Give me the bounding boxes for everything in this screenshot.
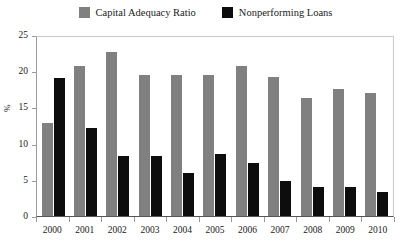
legend-label: Nonperforming Loans [239, 7, 333, 18]
x-axis-tick-mark [361, 217, 362, 222]
bar-group [102, 37, 134, 216]
x-axis-tick-mark [264, 217, 265, 222]
x-axis-tick-label: 2008 [296, 225, 329, 236]
y-axis-tick-label: 0 [23, 212, 28, 222]
x-axis-tick-label: 2007 [264, 225, 297, 236]
bar [268, 77, 279, 216]
x-axis-tick-label: 2004 [166, 225, 199, 236]
bar [377, 192, 388, 216]
bar [151, 156, 162, 216]
bar-group [361, 37, 393, 216]
bar [313, 187, 324, 216]
y-axis-tick-label: 20 [19, 67, 29, 77]
bar-group [264, 37, 296, 216]
chart-legend: Capital Adequacy Ratio Nonperforming Loa… [0, 2, 411, 22]
y-axis-tick-label: 25 [19, 31, 29, 41]
y-axis-tick-label: 15 [19, 103, 29, 113]
bar-group [296, 37, 328, 216]
bar-group [199, 37, 231, 216]
bar [203, 75, 214, 216]
bar [248, 163, 259, 216]
legend-item-capital-adequacy-ratio: Capital Adequacy Ratio [79, 7, 196, 18]
bar-group [134, 37, 166, 216]
bar [42, 123, 53, 216]
x-axis-tick-mark [296, 217, 297, 222]
bar [86, 128, 97, 216]
x-axis: 2000200120022003200420052006200720082009… [36, 217, 394, 246]
bar [333, 89, 344, 216]
bar [236, 66, 247, 216]
x-axis-tick-mark [199, 217, 200, 222]
x-axis-tick-mark [329, 217, 330, 222]
bar-group [166, 37, 198, 216]
bar [74, 66, 85, 216]
y-axis-tick-label: 5 [23, 176, 28, 186]
x-axis-tick-label: 2000 [36, 225, 69, 236]
x-axis-tick-mark [69, 217, 70, 222]
x-axis-tick-label: 2009 [329, 225, 362, 236]
bar [183, 173, 194, 216]
bar [301, 98, 312, 216]
legend-label: Capital Adequacy Ratio [96, 7, 196, 18]
legend-swatch-icon [79, 7, 90, 18]
x-axis-tick-mark [134, 217, 135, 222]
bar [171, 75, 182, 216]
x-axis-tick-label: 2003 [134, 225, 167, 236]
legend-swatch-icon [222, 7, 233, 18]
x-axis-tick-mark [36, 217, 37, 222]
legend-item-nonperforming-loans: Nonperforming Loans [222, 7, 333, 18]
bar [215, 154, 226, 216]
x-axis-tick-label: 2001 [69, 225, 102, 236]
y-axis-ticks: 2520151050 [0, 0, 36, 246]
x-axis-tick-label: 2010 [361, 225, 394, 236]
bar-group [328, 37, 360, 216]
y-axis-tick-label: 10 [19, 140, 29, 150]
x-axis-tick-marks [36, 217, 394, 222]
x-axis-tick-labels: 2000200120022003200420052006200720082009… [36, 225, 394, 236]
bar [139, 75, 150, 216]
x-axis-tick-mark [394, 217, 395, 222]
bar-group [231, 37, 263, 216]
bar [118, 156, 129, 216]
bar-series-container [37, 37, 393, 216]
bar [280, 181, 291, 216]
bar [365, 93, 376, 216]
bar [106, 52, 117, 216]
bar-group [37, 37, 69, 216]
x-axis-tick-mark [101, 217, 102, 222]
bar-chart: Capital Adequacy Ratio Nonperforming Loa… [0, 0, 411, 246]
bar-group [69, 37, 101, 216]
x-axis-tick-label: 2005 [199, 225, 232, 236]
x-axis-tick-mark [166, 217, 167, 222]
x-axis-tick-mark [231, 217, 232, 222]
x-axis-tick-label: 2002 [101, 225, 134, 236]
plot-area [36, 36, 394, 217]
bar [345, 187, 356, 216]
x-axis-tick-label: 2006 [231, 225, 264, 236]
bar [54, 78, 65, 216]
